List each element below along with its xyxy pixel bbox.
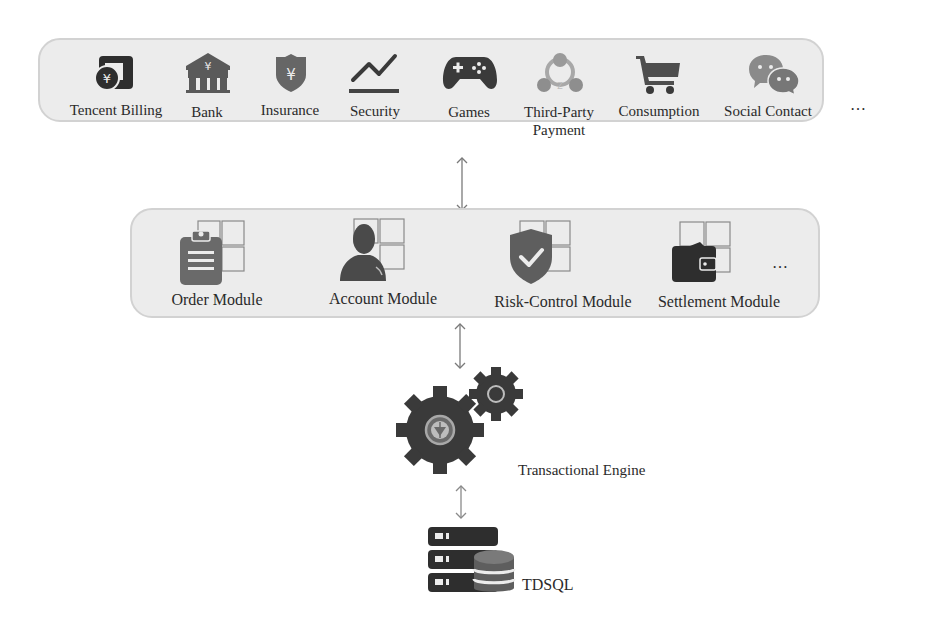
module-label: Risk-Control Module <box>494 293 631 311</box>
clipboard-module-icon <box>178 219 252 287</box>
item-label: Tencent Billing <box>70 102 163 118</box>
database-label: TDSQL <box>522 576 574 594</box>
item-label: Social Contact <box>724 103 812 119</box>
chat-bubbles-icon <box>748 54 800 96</box>
svg-text:¥: ¥ <box>205 60 212 73</box>
bidirectional-arrow-icon <box>455 156 469 212</box>
bidirectional-arrow-icon <box>453 322 467 370</box>
bidirectional-arrow-icon <box>454 484 468 520</box>
item-label: Games <box>448 104 490 120</box>
third-party-payment-icon: Z <box>535 52 585 94</box>
module-label: Settlement Module <box>658 293 780 311</box>
tencent-billing-icon: ¥ <box>93 54 135 92</box>
item-label: Consumption <box>619 103 700 119</box>
more-indicator: … <box>850 96 867 114</box>
svg-text:Z: Z <box>557 82 563 91</box>
wallet-module-icon <box>670 220 738 286</box>
bank-icon: ¥ <box>185 52 231 94</box>
database-server-icon <box>427 526 519 596</box>
shield-check-module-icon <box>508 219 574 287</box>
gears-icon <box>396 364 526 474</box>
module-label: Order Module <box>171 291 262 309</box>
security-chart-icon <box>347 52 401 94</box>
insurance-icon: ¥ <box>275 53 307 93</box>
gamepad-icon <box>442 54 498 92</box>
svg-text:¥: ¥ <box>286 66 296 84</box>
shopping-cart-icon <box>634 53 682 95</box>
more-indicator: … <box>772 254 789 272</box>
user-module-icon <box>338 217 410 285</box>
engine-label: Transactional Engine <box>518 462 645 479</box>
item-label: Security <box>350 103 400 119</box>
module-label: Account Module <box>329 290 437 308</box>
item-label: Payment <box>533 122 586 138</box>
item-label: Third-Party <box>524 104 594 120</box>
item-label: Insurance <box>261 102 319 118</box>
item-label: Bank <box>191 104 223 120</box>
svg-text:¥: ¥ <box>103 71 111 86</box>
